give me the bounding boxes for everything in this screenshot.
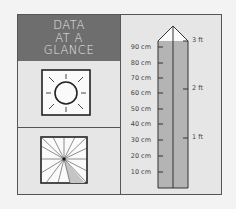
tick-label-30cm: 30 cm xyxy=(121,136,151,144)
data-at-a-glance-panel: DATA AT A GLANCE xyxy=(17,14,222,195)
tick-label-20cm: 20 cm xyxy=(121,152,151,160)
sun-icon xyxy=(41,69,91,116)
header-title: DATA AT A GLANCE xyxy=(18,15,120,61)
tick-label-3ft: 3 ft xyxy=(192,36,203,44)
measurement-column: 90 cm 80 cm 70 cm 60 cm 50 cm 40 cm 30 c… xyxy=(121,15,222,194)
tick-label-80cm: 80 cm xyxy=(121,59,151,67)
tick-label-1ft: 1 ft xyxy=(192,133,203,141)
left-column: DATA AT A GLANCE xyxy=(18,15,121,194)
tick-label-40cm: 40 cm xyxy=(121,120,151,128)
header-line-3: GLANCE xyxy=(18,44,120,57)
tick-label-50cm: 50 cm xyxy=(121,105,151,113)
header-line-1: DATA xyxy=(18,19,120,32)
tick-label-2ft: 2 ft xyxy=(192,84,203,92)
tick-label-10cm: 10 cm xyxy=(121,168,151,176)
tick-label-90cm: 90 cm xyxy=(121,43,151,51)
starburst-section xyxy=(18,128,120,196)
starburst-icon xyxy=(40,136,88,184)
tick-label-70cm: 70 cm xyxy=(121,74,151,82)
tick-label-60cm: 60 cm xyxy=(121,89,151,97)
sun-section xyxy=(18,61,120,128)
